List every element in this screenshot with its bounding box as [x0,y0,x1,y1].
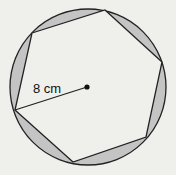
radius-label: 8 cm [33,81,61,96]
diagram-canvas: 8 cm [0,0,176,175]
center-point [84,84,89,89]
